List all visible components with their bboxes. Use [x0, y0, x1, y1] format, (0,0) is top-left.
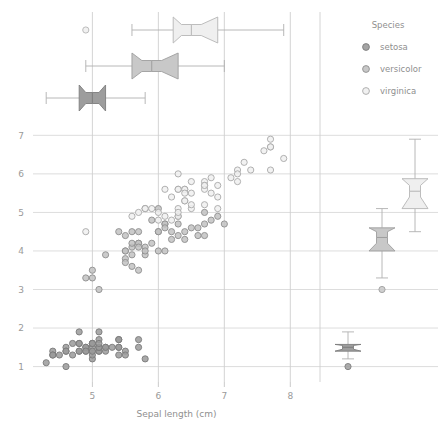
- box-shape: [402, 179, 428, 209]
- scatter-point: [76, 329, 82, 335]
- scatter-point: [149, 217, 155, 223]
- scatter-point: [83, 348, 89, 354]
- top-marginal-boxplots: [46, 17, 284, 111]
- scatter-point: [116, 352, 122, 358]
- box-shape: [369, 228, 395, 251]
- chart-canvas: 56787654321Sepal length (cm)Speciessetos…: [0, 0, 446, 434]
- boxplot-top-versicolor: [86, 53, 225, 79]
- scatter-point: [129, 229, 135, 235]
- x-axis-tick-label: 5: [90, 391, 96, 401]
- legend: Speciessetosaversicolorvirginica: [363, 20, 422, 96]
- scatter-point: [129, 240, 135, 246]
- joint-plot-figure: 56787654321Sepal length (cm)Speciessetos…: [0, 0, 446, 434]
- scatter-point: [135, 267, 141, 273]
- scatter-point: [162, 248, 168, 254]
- scatter-point: [155, 217, 161, 223]
- y-axis-tick-label: 2: [18, 323, 24, 333]
- scatter-point: [201, 209, 207, 215]
- scatter-point: [63, 363, 69, 369]
- scatter-point: [168, 217, 174, 223]
- scatter-point: [208, 217, 214, 223]
- scatter-point: [129, 252, 135, 258]
- scatter-point: [102, 344, 108, 350]
- scatter-point: [155, 209, 161, 215]
- scatter-series-setosa: [43, 329, 148, 370]
- scatter-point: [149, 205, 155, 211]
- scatter-point: [83, 229, 89, 235]
- scatter-point: [175, 209, 181, 215]
- scatter-point: [155, 248, 161, 254]
- scatter-point: [89, 275, 95, 281]
- x-axis-tick-label: 8: [287, 391, 293, 401]
- scatter-point: [188, 190, 194, 196]
- scatter-point: [208, 175, 214, 181]
- scatter-point: [267, 136, 273, 142]
- scatter-point: [122, 232, 128, 238]
- scatter-point: [182, 229, 188, 235]
- scatter-point: [149, 240, 155, 246]
- x-axis-tick-label: 6: [155, 391, 161, 401]
- scatter-point: [201, 202, 207, 208]
- y-axis-tick-label: 6: [18, 169, 24, 179]
- outlier-point: [345, 363, 351, 369]
- scatter-point: [50, 352, 56, 358]
- scatter-point: [129, 213, 135, 219]
- scatter-point: [76, 340, 82, 346]
- scatter-point: [281, 155, 287, 161]
- y-axis-tick-label: 3: [18, 285, 24, 295]
- scatter-point: [221, 221, 227, 227]
- legend-item-virginica[interactable]: virginica: [363, 86, 417, 96]
- scatter-point: [168, 236, 174, 242]
- scatter-point: [267, 167, 273, 173]
- legend-item-label: versicolor: [380, 64, 422, 74]
- scatter-point: [208, 190, 214, 196]
- scatter-point: [175, 232, 181, 238]
- scatter-point: [182, 190, 188, 196]
- scatter-point: [241, 159, 247, 165]
- scatter-point: [215, 194, 221, 200]
- scatter-point: [135, 229, 141, 235]
- scatter-point: [182, 236, 188, 242]
- scatter-point: [129, 263, 135, 269]
- scatter-point: [116, 344, 122, 350]
- scatter-point: [142, 356, 148, 362]
- scatter-point: [135, 344, 141, 350]
- scatter-point: [135, 337, 141, 343]
- scatter-point: [201, 182, 207, 188]
- scatter-point: [175, 221, 181, 227]
- scatter-point: [102, 252, 108, 258]
- scatter-point: [155, 229, 161, 235]
- legend-item-setosa[interactable]: setosa: [363, 42, 408, 52]
- y-axis-tick-label: 7: [18, 131, 24, 141]
- scatter-point: [76, 348, 82, 354]
- scatter-point: [122, 248, 128, 254]
- scatter-point: [43, 360, 49, 366]
- legend-item-versicolor[interactable]: versicolor: [363, 64, 422, 74]
- scatter-point: [135, 244, 141, 250]
- scatter-point: [261, 148, 267, 154]
- y-axis-tick-label: 1: [18, 362, 24, 372]
- x-axis-title: Sepal length (cm): [136, 409, 216, 419]
- scatter-point: [83, 275, 89, 281]
- scatter-point: [56, 352, 62, 358]
- scatter-point: [175, 186, 181, 192]
- scatter-series-versicolor: [83, 205, 228, 292]
- scatter-point: [96, 329, 102, 335]
- scatter-point: [188, 178, 194, 184]
- scatter-point: [142, 248, 148, 254]
- legend-marker-icon: [363, 88, 370, 95]
- scatter-point: [188, 225, 194, 231]
- scatter-point: [89, 340, 95, 346]
- boxplot-right-virginica: [402, 139, 428, 231]
- legend-item-label: virginica: [380, 86, 416, 96]
- scatter-series-group: [43, 136, 287, 370]
- y-axis-tick-label: 5: [18, 208, 24, 218]
- scatter-point: [162, 186, 168, 192]
- boxplot-top-virginica: [83, 17, 284, 43]
- scatter-point: [142, 205, 148, 211]
- scatter-point: [122, 259, 128, 265]
- scatter-point: [195, 232, 201, 238]
- scatter-point: [96, 340, 102, 346]
- scatter-point: [69, 340, 75, 346]
- scatter-point: [215, 213, 221, 219]
